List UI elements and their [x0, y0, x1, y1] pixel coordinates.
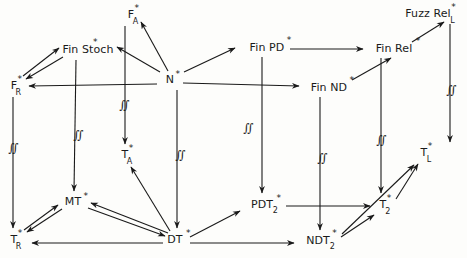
star-glyph: *: [428, 142, 433, 151]
node-F-A[interactable]: F*A: [128, 9, 134, 20]
integral-marker: ∬: [243, 121, 253, 135]
star-glyph: *: [129, 144, 134, 153]
star-glyph: *: [416, 37, 421, 46]
edge-FinND-to-FinRel: [352, 58, 391, 80]
edge-MT-to-TR: [27, 209, 62, 232]
integral-marker: ∬: [73, 128, 83, 142]
diagram-edges: [0, 0, 467, 258]
node-fin-nd[interactable]: Fin ND*: [311, 82, 347, 93]
edge-FinStoch-to-MT: [74, 60, 76, 191]
node-T-A[interactable]: T*A: [122, 149, 129, 160]
node-fin-rel[interactable]: Fin Rel*: [376, 43, 413, 54]
node-F-R[interactable]: F*R: [11, 80, 17, 91]
integral-marker: ∬: [175, 148, 185, 162]
node-T-R[interactable]: T*R: [11, 234, 18, 245]
node-fin-pd[interactable]: Fin PD*: [250, 42, 285, 53]
star-glyph: *: [135, 4, 140, 13]
edge-N-to-FR: [29, 84, 157, 86]
star-glyph: *: [176, 70, 181, 79]
node-T-L[interactable]: T*L: [421, 147, 428, 158]
node-NDT-2[interactable]: NDT*2: [306, 235, 330, 246]
edge-N-to-FinND: [183, 83, 299, 86]
node-PDT-2[interactable]: PDT*2: [251, 199, 273, 210]
edge-FinStoch-to-FR: [26, 57, 63, 79]
node-fuzz-rel-L[interactable]: Fuzz Rel*L: [405, 8, 451, 19]
integral-marker: ∬: [376, 133, 386, 147]
star-glyph: *: [84, 192, 89, 201]
integral-marker: ∬: [317, 151, 327, 165]
node-DT[interactable]: DT*: [167, 234, 182, 245]
edge-TR-to-MT: [24, 205, 58, 230]
edge-N-to-FinStoch: [117, 47, 160, 72]
star-glyph: *: [186, 229, 191, 238]
edge-T2-to-TL: [396, 164, 418, 199]
star-glyph: *: [332, 229, 337, 238]
star-glyph: *: [18, 75, 23, 84]
edge-NDT2-to-T2: [341, 215, 374, 237]
diagram-canvas: F*A Fuzz Rel*L Fin Stoch* Fin PD* Fin Re…: [0, 0, 467, 258]
star-glyph: *: [18, 229, 23, 238]
star-glyph: *: [287, 36, 292, 45]
edge-NDT2-to-TL: [342, 165, 414, 234]
edge-DT-to-MT: [91, 203, 168, 233]
star-glyph: *: [350, 76, 355, 85]
integral-marker: ∬: [446, 83, 456, 97]
integral-marker: ∬: [119, 98, 129, 112]
star-glyph: *: [93, 38, 98, 47]
integral-marker: ∬: [8, 141, 18, 155]
node-fin-stoch[interactable]: Fin Stoch*: [63, 44, 114, 55]
edge-N-to-FinPD: [184, 48, 235, 72]
edge-MT-to-DT: [88, 208, 165, 236]
star-glyph: *: [387, 194, 392, 203]
node-MT[interactable]: MT*: [65, 196, 81, 207]
edge-DT-to-PDT2: [190, 211, 240, 237]
star-glyph: *: [451, 3, 456, 12]
star-glyph: *: [276, 194, 281, 203]
node-N[interactable]: N*: [166, 74, 174, 85]
node-T-2[interactable]: T*2: [380, 199, 387, 210]
